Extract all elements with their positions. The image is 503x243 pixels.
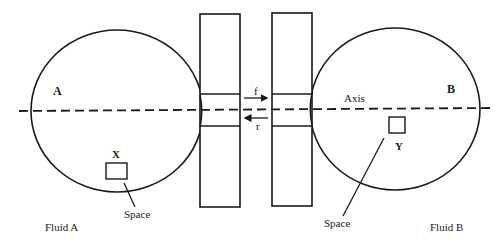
circle-a [31,30,203,192]
label-space-left: Space [124,208,150,220]
label-axis: Axis [344,92,365,104]
label-box-x: X [112,148,120,160]
box-x [106,163,127,179]
label-arrow-reverse: r [256,120,260,132]
label-fluid-a: Fluid A [45,221,78,233]
label-space-right: Space [324,217,350,229]
label-body-b: B [447,82,455,96]
label-body-a: A [53,84,62,98]
axis-line [19,108,490,111]
label-fluid-b: Fluid B [430,221,463,233]
box-y [389,117,405,133]
label-box-y: Y [395,140,403,152]
label-arrow-forward: f [254,85,258,97]
space-left-pointer [124,183,135,207]
diagram-canvas: A B Axis f r X Y Space Space Fluid A Flu… [0,0,503,243]
diagram-svg: A B Axis f r X Y Space Space Fluid A Flu… [0,0,503,243]
